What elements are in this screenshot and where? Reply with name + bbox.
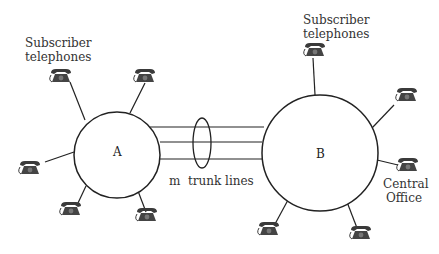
telephone-icon: [134, 69, 155, 82]
telephone-network-diagram: A B Subscriber telephones Subscriber tel…: [0, 0, 439, 254]
telephone-icon: [304, 43, 325, 56]
telephone-icon: [258, 222, 279, 235]
telephone-icon: [396, 88, 417, 101]
subscriber-left-label-line1: Subscriber: [25, 36, 92, 50]
telephone-icon: [60, 202, 81, 215]
central-office-label-line1: Central: [383, 177, 429, 191]
node-b-label: B: [316, 147, 325, 161]
trunk-lines-label: m trunk lines: [169, 174, 254, 188]
subscriber-left-label-line2: telephones: [25, 50, 92, 64]
trunk-lines: [150, 127, 264, 159]
subscriber-right-label-line2: telephones: [303, 27, 370, 41]
telephone-icon: [350, 226, 371, 239]
central-office-label-line2: Office: [386, 191, 422, 205]
telephone-icon: [50, 69, 71, 82]
node-a-label: A: [112, 145, 122, 159]
telephone-icon: [397, 158, 418, 171]
subscriber-right-label-line1: Subscriber: [303, 13, 370, 27]
telephone-icon: [136, 208, 157, 221]
telephone-icon: [19, 161, 40, 174]
trunk-bundle-ellipse: [193, 118, 211, 168]
